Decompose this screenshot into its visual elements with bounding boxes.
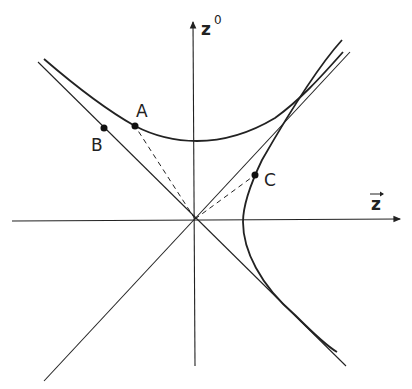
point-B <box>101 125 108 132</box>
label-C: C <box>264 170 276 190</box>
vertical-axis-superscript: 0 <box>214 13 222 27</box>
vertical-axis-label: z <box>201 19 211 39</box>
label-A: A <box>136 101 148 121</box>
light-cone-line-2 <box>44 52 350 381</box>
horizontal-axis <box>12 219 400 221</box>
horizontal-axis-label: z <box>371 194 381 214</box>
point-C <box>252 172 259 179</box>
vertical-axis <box>193 22 195 366</box>
dashed-line-C <box>195 175 255 219</box>
spacetime-diagram: A B C z 0 z <box>0 0 412 389</box>
point-A <box>132 123 139 130</box>
label-B: B <box>91 135 103 155</box>
right-hyperbola <box>243 40 342 352</box>
